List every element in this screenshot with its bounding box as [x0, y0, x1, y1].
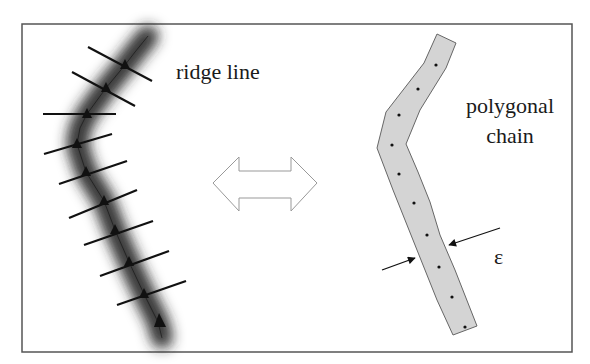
epsilon-label: ε	[494, 244, 503, 269]
ridge-to-polygon-diagram: ridge line polygonal chain ε	[0, 0, 590, 364]
chain-label: chain	[486, 123, 534, 148]
chain-vertex-dot	[437, 265, 440, 268]
polygonal-chain-shape	[377, 34, 477, 335]
ridge-line-label: ridge line	[176, 59, 260, 84]
chain-vertex-dot	[434, 63, 437, 66]
chain-vertex-dot	[397, 172, 400, 175]
chain-vertex-dot	[397, 113, 400, 116]
polygonal-chain-panel: polygonal chain ε	[377, 34, 554, 335]
double-arrow-icon	[213, 157, 317, 211]
chain-vertex-dot	[425, 233, 428, 236]
width-arrow-icon	[382, 258, 415, 270]
width-arrow-icon	[449, 228, 500, 245]
chain-vertex-dot	[450, 295, 453, 298]
chain-vertex-dot	[390, 143, 393, 146]
chain-vertex-dot	[412, 201, 415, 204]
polygonal-label: polygonal	[466, 93, 554, 118]
chain-vertex-dot	[463, 325, 466, 328]
chain-vertex-dot	[416, 87, 419, 90]
